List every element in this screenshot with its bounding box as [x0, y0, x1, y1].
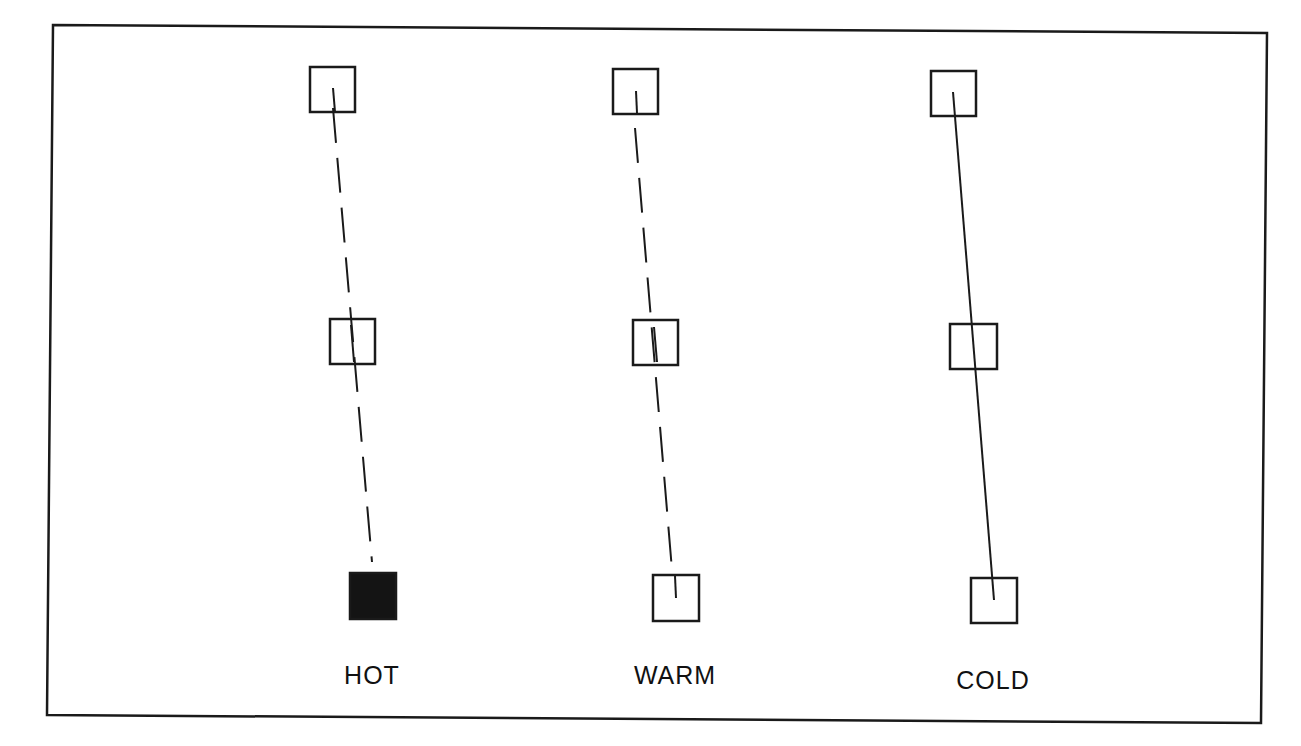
- warm-node-1-tick: [636, 91, 637, 113]
- column-warm: [613, 69, 699, 621]
- label-warm: WARM: [634, 661, 716, 690]
- warm-node-3-tick: [675, 576, 676, 598]
- warm-connector-dashed: [635, 128, 672, 570]
- cold-connector-solid: [953, 92, 994, 600]
- column-cold: [931, 71, 1017, 623]
- diagram-canvas: [0, 0, 1301, 746]
- diagram-frame: [47, 25, 1267, 723]
- hot-node-3-filled: [350, 573, 396, 619]
- cold-node-3: [971, 578, 1017, 623]
- column-hot: [310, 67, 396, 619]
- label-hot: HOT: [344, 661, 400, 690]
- label-cold: COLD: [956, 666, 1029, 695]
- columns-group: [310, 67, 1017, 623]
